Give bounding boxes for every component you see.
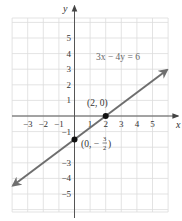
y-tick-label: −1: [61, 127, 71, 137]
grid-lines: [12, 18, 168, 212]
y-tick-label: 3: [67, 64, 72, 74]
y-intercept-label-prefix: (0, −: [81, 139, 99, 150]
y-intercept-label: (0, − 3 2 ): [81, 135, 111, 151]
y-intercept-label-suffix: ): [108, 139, 111, 150]
x-intercept-label: (2, 0): [87, 98, 108, 109]
x-tick-label: −3: [23, 119, 33, 129]
y-tick-label: −3: [61, 158, 71, 168]
x-tick-label: 4: [135, 119, 140, 129]
point-y-intercept: [72, 136, 78, 142]
x-axis-label: x: [175, 119, 181, 130]
y-intercept-label-denominator: 2: [103, 144, 106, 151]
y-tick-label: 2: [67, 80, 72, 90]
equation-label: 3x − 4y = 6: [96, 52, 140, 62]
x-tick-label: 5: [150, 119, 155, 129]
y-intercept-label-numerator: 3: [103, 135, 106, 142]
graph-figure: x y −3−2−112345 54321−1−3−4−5 3x − 4y = …: [0, 0, 182, 221]
x-tick-label: 3: [119, 119, 124, 129]
y-tick-label: −4: [61, 173, 71, 183]
x-tick-label: −2: [39, 119, 49, 129]
y-tick-label: 4: [67, 49, 72, 59]
y-tick-label: 5: [67, 33, 72, 43]
y-axis-label: y: [62, 3, 68, 14]
y-tick-label: 1: [67, 95, 72, 105]
x-tick-label: 2: [103, 119, 108, 129]
point-x-intercept: [103, 113, 109, 119]
y-tick-label: −5: [61, 189, 71, 199]
